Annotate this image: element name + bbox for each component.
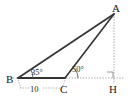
right-angle-mark-at-h: [107, 72, 113, 78]
angle-label-at-c: 50°: [72, 64, 84, 74]
dimension-tick-at-b: [18, 80, 21, 88]
angle-label-at-b: 35°: [31, 67, 43, 77]
length-label-bc: 10: [30, 84, 39, 94]
geometry-figure-svg: A B C H 35° 50° 10: [0, 0, 131, 111]
geometry-diagram: A B C H 35° 50° 10: [0, 0, 131, 111]
vertex-label-c: C: [60, 83, 67, 95]
vertex-label-b: B: [6, 73, 13, 85]
vertex-label-a: A: [112, 2, 120, 14]
vertex-label-h: H: [109, 83, 117, 95]
